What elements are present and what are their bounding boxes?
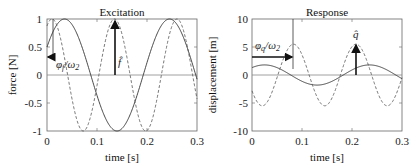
svg-text:0: 0 bbox=[249, 135, 255, 147]
svg-text:0: 0 bbox=[44, 135, 50, 147]
svg-text:0.3: 0.3 bbox=[190, 135, 204, 147]
y-axis-label: displacement [m] bbox=[206, 37, 218, 114]
figure: Excitation 1 0.5 0 -0.5 -1 0 0.1 0.2 0.3… bbox=[0, 0, 417, 168]
excitation-plot: Excitation 1 0.5 0 -0.5 -1 0 0.1 0.2 0.3… bbox=[6, 6, 204, 163]
x-tick-labels: 0 0.1 0.2 0.3 bbox=[249, 135, 409, 147]
svg-text:0.2: 0.2 bbox=[345, 135, 359, 147]
svg-text:1: 1 bbox=[37, 13, 43, 25]
svg-text:-1: -1 bbox=[33, 125, 42, 137]
excitation-title: Excitation bbox=[99, 6, 145, 18]
phase-annotation: φq/ω2 bbox=[255, 39, 280, 53]
y-tick-labels: 10 5 0 -5 -10 bbox=[233, 13, 248, 137]
y-axis-label: force [N] bbox=[6, 55, 18, 96]
svg-text:-10: -10 bbox=[233, 125, 248, 137]
amplitude-annotation: f̂ bbox=[118, 56, 123, 68]
svg-text:0.1: 0.1 bbox=[90, 135, 104, 147]
svg-text:0.5: 0.5 bbox=[28, 41, 42, 53]
response-title: Response bbox=[306, 6, 348, 18]
svg-text:0.2: 0.2 bbox=[140, 135, 154, 147]
svg-text:0: 0 bbox=[37, 69, 43, 81]
svg-text:0.1: 0.1 bbox=[295, 135, 309, 147]
svg-text:-5: -5 bbox=[239, 97, 249, 109]
svg-text:0: 0 bbox=[243, 69, 249, 81]
phase-annotation: φf/ω2 bbox=[56, 58, 79, 72]
svg-text:10: 10 bbox=[237, 13, 249, 25]
x-axis-label: time [s] bbox=[105, 151, 139, 163]
svg-text:5: 5 bbox=[243, 41, 249, 53]
y-tick-labels: 1 0.5 0 -0.5 -1 bbox=[25, 13, 43, 137]
x-axis-label: time [s] bbox=[310, 151, 344, 163]
svg-text:0.3: 0.3 bbox=[395, 135, 409, 147]
svg-text:-0.5: -0.5 bbox=[25, 97, 43, 109]
response-plot: Response 10 5 0 -5 -10 0 0.1 0.2 0.3 tim… bbox=[206, 6, 409, 163]
x-tick-labels: 0 0.1 0.2 0.3 bbox=[44, 135, 204, 147]
amplitude-annotation: q̂ bbox=[353, 28, 359, 40]
